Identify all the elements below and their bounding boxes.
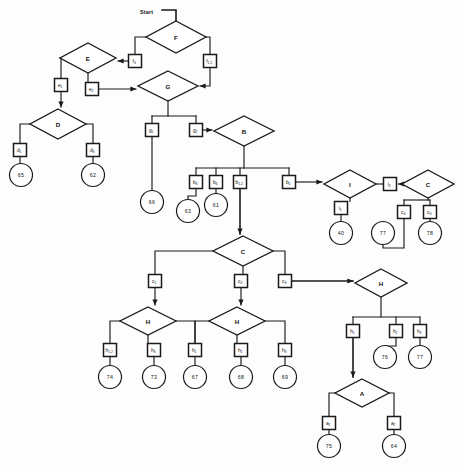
terminal-label: 67: [192, 374, 198, 380]
terminal-label: 65: [18, 172, 24, 178]
decision-node-h[interactable]: H: [209, 307, 265, 335]
process-box-a1[interactable]: a1: [323, 417, 336, 430]
connector: [200, 68, 210, 87]
process-box-d3[interactable]: d3: [87, 144, 100, 157]
start-label: Start: [140, 9, 153, 15]
process-box-c3r[interactable]: c3: [424, 206, 437, 219]
terminal-node-67[interactable]: 67: [184, 366, 207, 389]
decision-node-c[interactable]: C: [213, 236, 273, 266]
terminal-node-62[interactable]: 62: [82, 164, 105, 187]
decision-node-e[interactable]: E: [60, 43, 116, 73]
process-box-h3b[interactable]: h3: [279, 344, 292, 357]
terminal-node-64[interactable]: 64: [383, 435, 406, 458]
decision-node-f[interactable]: F: [146, 21, 206, 53]
connector: [265, 321, 285, 344]
process-box-h2c[interactable]: h2: [390, 325, 403, 338]
process-box-i1[interactable]: i1: [335, 202, 348, 215]
decision-node-a[interactable]: A: [335, 379, 389, 407]
decision-label: D: [56, 121, 61, 128]
decision-label: A: [360, 390, 365, 397]
decision-label: H: [379, 280, 384, 287]
terminal-node-78[interactable]: 78: [419, 222, 442, 245]
terminal-node-77[interactable]: 77: [409, 346, 432, 369]
terminal-label: 77: [417, 354, 423, 360]
terminal-label: 78: [427, 230, 433, 236]
terminal-label: 62: [90, 172, 96, 178]
decision-node-c[interactable]: C: [402, 170, 454, 198]
terminal-label: 61: [213, 202, 219, 208]
terminal-node-68[interactable]: 68: [230, 366, 253, 389]
node-layer: FEGDBICCHHHAf3f1,2e1e2d1d3g1g2b3b4b1,2b5…: [10, 9, 455, 458]
terminal-label: 69: [282, 374, 288, 380]
flowchart-svg: FEGDBICCHHHAf3f1,2e1e2d1d3g1g2b3b4b1,2b5…: [0, 0, 458, 472]
connector: [273, 251, 285, 275]
decision-label: G: [165, 83, 170, 90]
process-box-h12[interactable]: h1,2: [104, 344, 117, 357]
decision-label: H: [235, 318, 240, 325]
process-box-c4[interactable]: c4: [398, 206, 411, 219]
process-box-h1c[interactable]: h1: [347, 325, 360, 338]
decision-node-g[interactable]: G: [138, 71, 198, 101]
decision-node-h[interactable]: H: [120, 307, 176, 335]
decision-node-b[interactable]: B: [214, 116, 274, 146]
terminal-node-40[interactable]: 40: [330, 222, 353, 245]
process-box-e1[interactable]: e1: [55, 79, 68, 92]
process-box-h2b[interactable]: h2: [235, 344, 248, 357]
terminal-label: 63: [185, 208, 191, 214]
terminal-node-76[interactable]: 76: [374, 346, 397, 369]
process-box-g1[interactable]: g1: [146, 124, 159, 137]
decision-node-h[interactable]: H: [355, 269, 407, 297]
terminal-label: 64: [391, 443, 397, 449]
terminal-label: 40: [338, 230, 344, 236]
process-box-a2[interactable]: a2: [388, 417, 401, 430]
process-box-b4[interactable]: b4: [210, 176, 223, 189]
connector: [60, 58, 61, 79]
terminal-node-63[interactable]: 63: [177, 200, 200, 223]
terminal-node-65[interactable]: 65: [10, 164, 33, 187]
connector: [188, 189, 196, 200]
decision-label: E: [86, 55, 90, 62]
process-box-d1[interactable]: d1: [14, 144, 27, 157]
decision-node-i[interactable]: I: [324, 170, 376, 198]
decision-label: C: [241, 248, 246, 255]
process-box-h3a[interactable]: h3: [148, 344, 161, 357]
terminal-node-69[interactable]: 69: [274, 366, 297, 389]
process-box-b12[interactable]: b1,2: [234, 176, 247, 189]
connector: [110, 321, 120, 344]
terminal-node-66[interactable]: 66: [141, 191, 164, 214]
process-box-h1b[interactable]: h1: [189, 344, 202, 357]
terminal-node-75[interactable]: 75: [318, 435, 341, 458]
process-box-f3[interactable]: f3: [129, 55, 142, 68]
terminal-label: 75: [326, 443, 332, 449]
decision-node-d[interactable]: D: [30, 109, 86, 139]
connector: [195, 321, 209, 344]
terminal-node-77[interactable]: 77: [372, 222, 395, 245]
process-box-e2[interactable]: e2: [86, 83, 99, 96]
process-box-i2[interactable]: i2: [384, 178, 397, 191]
connector: [389, 393, 394, 417]
process-box-b3[interactable]: b3: [190, 176, 203, 189]
process-box-c2[interactable]: c2: [235, 275, 248, 288]
terminal-node-61[interactable]: 61: [205, 194, 228, 217]
terminal-label: 73: [151, 374, 157, 380]
terminal-label: 68: [238, 374, 244, 380]
connector: [329, 393, 335, 417]
terminal-label: 74: [107, 374, 113, 380]
process-box-c1[interactable]: c1: [149, 275, 162, 288]
process-box-b5[interactable]: b5: [283, 176, 296, 189]
connector: [162, 10, 176, 21]
process-box-h3c[interactable]: h3: [414, 325, 427, 338]
terminal-node-74[interactable]: 74: [99, 366, 122, 389]
process-box-g2[interactable]: g2: [190, 124, 203, 137]
connector: [20, 124, 30, 144]
connector: [176, 321, 195, 344]
connector: [155, 251, 213, 275]
edge-layer: [20, 10, 430, 435]
decision-label: H: [146, 318, 151, 325]
process-box-f12[interactable]: f1,2: [204, 55, 217, 68]
terminal-label: 77: [380, 230, 386, 236]
terminal-label: 76: [382, 354, 388, 360]
connector: [135, 37, 146, 55]
terminal-node-73[interactable]: 73: [143, 366, 166, 389]
process-box-c3[interactable]: c3: [279, 275, 292, 288]
